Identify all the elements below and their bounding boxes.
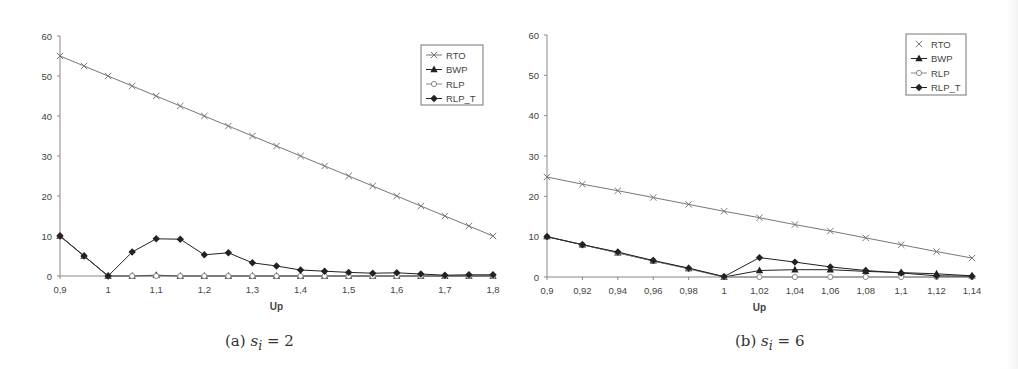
diamond-marker-icon bbox=[791, 258, 798, 265]
x-tick-label: 1,1 bbox=[150, 284, 163, 295]
caption-a-prefix: (a) bbox=[225, 332, 246, 350]
x-marker-icon bbox=[370, 183, 376, 189]
x-tick-label: 1,4 bbox=[294, 284, 307, 295]
caption-a: (a) si = 2 bbox=[225, 332, 294, 353]
legend-label: RLP_T bbox=[446, 93, 476, 104]
x-tick-label: 0,9 bbox=[53, 284, 66, 295]
circle-marker-icon bbox=[863, 274, 868, 279]
chart-panel-a: 01020304050600,911,11,21,31,41,51,61,71,… bbox=[0, 0, 505, 369]
circle-marker-icon bbox=[178, 273, 183, 278]
x-marker-icon bbox=[345, 173, 351, 179]
caption-a-sub: i bbox=[258, 338, 262, 353]
legend: RTOBWPRLPRLP_T bbox=[906, 34, 966, 95]
legend-label: BWP bbox=[931, 53, 953, 64]
x-tick-label: 1,08 bbox=[857, 285, 876, 296]
x-tick-label: 1,12 bbox=[927, 285, 946, 296]
caption-b-value: = 6 bbox=[778, 332, 805, 350]
x-tick-label: 0,94 bbox=[609, 285, 628, 296]
y-tick-label: 20 bbox=[528, 191, 539, 202]
y-tick-label: 30 bbox=[528, 151, 539, 162]
caption-a-var: s bbox=[250, 332, 258, 350]
x-tick-label: 0,92 bbox=[573, 285, 592, 296]
x-tick-label: 1,6 bbox=[390, 284, 403, 295]
y-tick-label: 20 bbox=[41, 191, 52, 202]
y-tick-label: 40 bbox=[528, 110, 539, 121]
x-tick-label: 0,96 bbox=[644, 285, 663, 296]
circle-marker-icon bbox=[757, 274, 762, 279]
x-tick-label: 0,9 bbox=[540, 285, 553, 296]
circle-marker-icon bbox=[154, 273, 159, 278]
circle-marker-icon bbox=[130, 273, 135, 278]
x-tick-label: 0,98 bbox=[679, 285, 698, 296]
chart-panel-b: 01020304050600,90,920,940,960,9811,021,0… bbox=[505, 0, 1018, 369]
y-tick-label: 10 bbox=[41, 231, 52, 242]
caption-b-var: s bbox=[761, 332, 769, 350]
x-marker-icon bbox=[105, 73, 111, 79]
x-axis-label: Up bbox=[753, 302, 766, 313]
x-marker-icon bbox=[249, 133, 255, 139]
x-marker-icon bbox=[418, 203, 424, 209]
line-chart-a: 01020304050600,911,11,21,31,41,51,61,71,… bbox=[0, 0, 505, 330]
diamond-marker-icon bbox=[249, 259, 256, 266]
diamond-marker-icon bbox=[225, 249, 232, 256]
page-edge-shadow bbox=[1006, 0, 1018, 369]
x-marker-icon bbox=[490, 233, 496, 239]
x-marker-icon bbox=[81, 63, 87, 69]
x-tick-label: 1,5 bbox=[342, 284, 355, 295]
diamond-marker-icon bbox=[968, 272, 975, 279]
x-tick-label: 1,14 bbox=[963, 285, 982, 296]
y-tick-label: 50 bbox=[528, 70, 539, 81]
y-tick-label: 10 bbox=[528, 231, 539, 242]
x-marker-icon bbox=[273, 143, 279, 149]
x-marker-icon bbox=[394, 193, 400, 199]
caption-b-sub: i bbox=[769, 338, 773, 353]
diamond-marker-icon bbox=[297, 266, 304, 273]
series-rlp bbox=[57, 233, 495, 278]
circle-marker-icon bbox=[792, 274, 797, 279]
circle-marker-icon bbox=[916, 70, 921, 75]
x-marker-icon bbox=[321, 163, 327, 169]
x-axis-label: Up bbox=[270, 301, 283, 312]
y-tick-label: 0 bbox=[534, 272, 539, 283]
circle-marker-icon bbox=[274, 273, 279, 278]
diamond-marker-icon bbox=[273, 262, 280, 269]
x-marker-icon bbox=[201, 113, 207, 119]
circle-marker-icon bbox=[226, 273, 231, 278]
legend-label: RLP bbox=[931, 68, 949, 79]
legend: RTOBWPRLPRLP_T bbox=[421, 45, 483, 105]
x-tick-label: 1,06 bbox=[821, 285, 840, 296]
caption-a-value: = 2 bbox=[267, 332, 294, 350]
x-marker-icon bbox=[225, 123, 231, 129]
diamond-marker-icon bbox=[177, 236, 184, 243]
caption-b: (b) si = 6 bbox=[735, 332, 804, 353]
y-tick-label: 40 bbox=[41, 111, 52, 122]
legend-label: RTO bbox=[446, 50, 466, 61]
x-tick-label: 1,2 bbox=[198, 284, 211, 295]
triangle-marker-icon bbox=[791, 266, 798, 273]
circle-marker-icon bbox=[298, 273, 303, 278]
circle-marker-icon bbox=[431, 81, 436, 86]
circle-marker-icon bbox=[250, 273, 255, 278]
x-tick-label: 1 bbox=[721, 285, 726, 296]
x-marker-icon bbox=[297, 153, 303, 159]
x-marker-icon bbox=[153, 93, 159, 99]
x-tick-label: 1 bbox=[105, 284, 110, 295]
x-tick-label: 1,3 bbox=[246, 284, 259, 295]
x-marker-icon bbox=[466, 223, 472, 229]
x-tick-label: 1,8 bbox=[486, 284, 499, 295]
legend-label: RLP bbox=[446, 79, 464, 90]
diamond-marker-icon bbox=[756, 254, 763, 261]
y-tick-label: 30 bbox=[41, 151, 52, 162]
x-tick-label: 1,04 bbox=[786, 285, 805, 296]
circle-marker-icon bbox=[202, 273, 207, 278]
legend-label: RTO bbox=[931, 39, 951, 50]
x-marker-icon bbox=[442, 213, 448, 219]
diamond-marker-icon bbox=[321, 268, 328, 275]
x-marker-icon bbox=[177, 103, 183, 109]
y-tick-label: 60 bbox=[528, 30, 539, 41]
x-tick-label: 1,1 bbox=[895, 285, 908, 296]
circle-marker-icon bbox=[828, 274, 833, 279]
diamond-marker-icon bbox=[201, 251, 208, 258]
y-tick-label: 0 bbox=[47, 271, 52, 282]
y-tick-label: 60 bbox=[41, 31, 52, 42]
